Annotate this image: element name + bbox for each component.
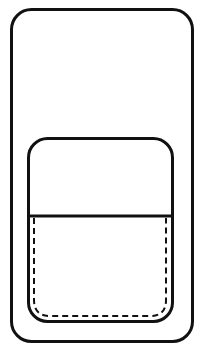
stitching-dashed-line xyxy=(34,218,166,316)
diagram-canvas xyxy=(0,0,201,352)
pocket-outline xyxy=(29,139,173,322)
